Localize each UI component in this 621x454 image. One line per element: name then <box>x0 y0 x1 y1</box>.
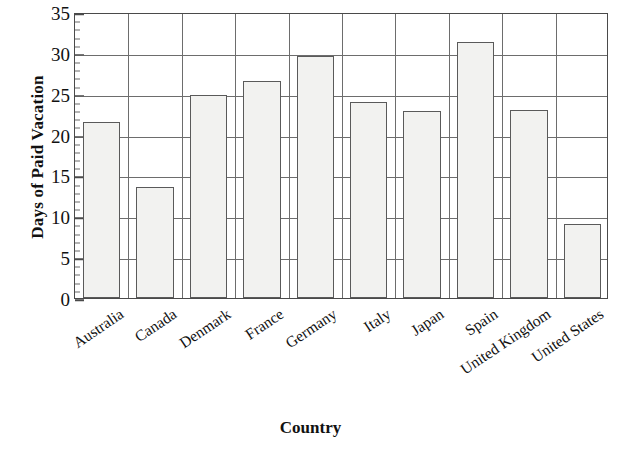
x-tick-label: Australia <box>70 305 127 352</box>
y-tick-minor <box>75 144 80 145</box>
x-tick-label: Canada <box>132 305 181 346</box>
x-tick-label: Japan <box>408 305 447 340</box>
y-tick-minor <box>75 267 80 268</box>
bar-chart: Days of Paid Vacation 05101520253035 Aus… <box>0 0 621 454</box>
y-tick-major <box>75 95 84 97</box>
y-tick-minor <box>75 120 80 121</box>
bar <box>403 111 440 298</box>
gridline-vertical <box>342 14 343 298</box>
y-tick-major <box>75 299 84 301</box>
y-tick-minor <box>75 193 80 194</box>
gridline-vertical <box>449 14 450 298</box>
y-tick-minor <box>75 103 80 104</box>
plot-area <box>74 13 608 299</box>
x-tick-label: Spain <box>461 305 500 340</box>
gridline-vertical <box>395 14 396 298</box>
bar <box>83 122 120 298</box>
y-tick-label: 25 <box>36 85 70 104</box>
gridline-vertical <box>235 14 236 298</box>
y-tick-minor <box>75 128 80 129</box>
y-tick-minor <box>75 112 80 113</box>
y-tick-label: 10 <box>36 208 70 227</box>
y-tick-label: 35 <box>36 4 70 23</box>
y-tick-minor <box>75 291 80 292</box>
x-axis-title: Country <box>0 418 621 438</box>
y-tick-minor <box>75 242 80 243</box>
bar <box>297 56 334 298</box>
x-tick-label: Denmark <box>176 305 234 352</box>
y-axis-tick-labels: 05101520253035 <box>26 13 70 299</box>
y-tick-minor <box>75 275 80 276</box>
y-tick-minor <box>75 87 80 88</box>
bar <box>564 224 601 298</box>
bar <box>510 110 547 298</box>
y-tick-minor <box>75 152 80 153</box>
x-tick-label: Germany <box>283 305 341 352</box>
y-tick-minor <box>75 161 80 162</box>
y-tick-minor <box>75 250 80 251</box>
bar <box>457 42 494 298</box>
gridline-vertical <box>556 14 557 298</box>
y-tick-minor <box>75 185 80 186</box>
y-tick-label: 30 <box>36 44 70 63</box>
bar <box>190 95 227 298</box>
x-axis-tick-labels: AustraliaCanadaDenmarkFranceGermanyItaly… <box>74 303 608 413</box>
y-tick-minor <box>75 63 80 64</box>
gridline-vertical <box>502 14 503 298</box>
gridline-vertical <box>128 14 129 298</box>
y-tick-label: 0 <box>36 290 70 309</box>
y-tick-major <box>75 13 84 15</box>
y-tick-label: 20 <box>36 126 70 145</box>
gridline-vertical <box>289 14 290 298</box>
y-tick-minor <box>75 234 80 235</box>
y-tick-minor <box>75 79 80 80</box>
gridline-vertical <box>182 14 183 298</box>
y-tick-major <box>75 54 84 56</box>
x-tick-label: United Kingdom <box>457 305 554 378</box>
x-tick-label: France <box>242 305 287 344</box>
y-tick-minor <box>75 210 80 211</box>
gridline-horizontal <box>75 96 607 97</box>
y-tick-label: 5 <box>36 249 70 268</box>
y-tick-minor <box>75 226 80 227</box>
y-tick-minor <box>75 30 80 31</box>
bar <box>350 102 387 298</box>
y-tick-minor <box>75 71 80 72</box>
y-tick-minor <box>75 22 80 23</box>
x-tick-label: Italy <box>360 305 394 336</box>
y-tick-minor <box>75 169 80 170</box>
y-tick-label: 15 <box>36 167 70 186</box>
gridline-horizontal <box>75 55 607 56</box>
bar <box>243 81 280 298</box>
bar <box>136 187 173 298</box>
y-tick-minor <box>75 38 80 39</box>
y-tick-minor <box>75 46 80 47</box>
y-tick-minor <box>75 283 80 284</box>
y-tick-minor <box>75 201 80 202</box>
